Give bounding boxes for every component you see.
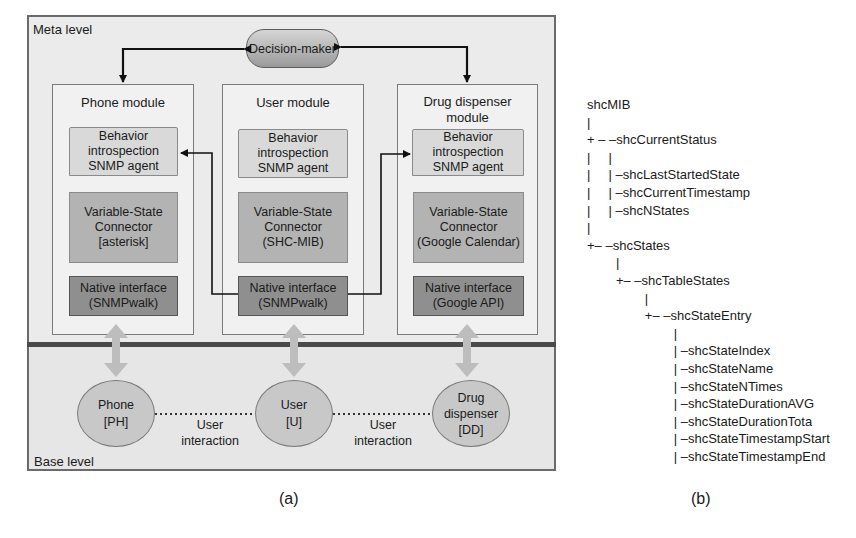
mib-tree-line: | –shcStateNTimes [587,378,830,396]
mib-tree-line: | [587,114,830,132]
mib-tree-line: | [587,325,830,343]
mib-tree: shcMIB|+ – –shcCurrentStatus| || | –shcL… [587,96,830,465]
mib-tree-line: | | –shcCurrentTimestamp [587,184,830,202]
mib-tree-line: | | –shcLastStartedState [587,166,830,184]
user-native-to-phone-agent-connector [181,153,238,294]
mib-tree-line: | –shcStateName [587,360,830,378]
figure-b-caption: (b) [691,490,711,508]
mib-tree-line: | –shcStateTimestampStart [587,430,830,448]
drug-level-arrow [455,324,479,377]
decision-to-phone-connector [123,49,244,82]
mib-tree-line: | | [587,149,830,167]
mib-tree-line: | [587,254,830,272]
user-level-arrow [282,324,306,377]
figure-a-caption: (a) [279,490,299,508]
mib-tree-line: | [587,290,830,308]
mib-tree-line: | [587,219,830,237]
decision-to-drug-connector [341,47,467,82]
mib-tree-line: + – –shcCurrentStatus [587,131,830,149]
mib-tree-line: | –shcStateDurationTota [587,413,830,431]
user-native-to-drug-agent-connector [348,154,410,294]
phone-level-arrow [104,324,128,377]
mib-tree-line: | –shcStateIndex [587,342,830,360]
mib-tree-line: | –shcStateDurationAVG [587,395,830,413]
mib-tree-line: shcMIB [587,96,830,114]
mib-tree-line: +– –shcTableStates [587,272,830,290]
mib-tree-line: | | –shcNStates [587,202,830,220]
mib-tree-line: +– –shcStateEntry [587,307,830,325]
mib-tree-line: +– –shcStates [587,237,830,255]
mib-tree-line: | –shcStateTimestampEnd [587,448,830,466]
